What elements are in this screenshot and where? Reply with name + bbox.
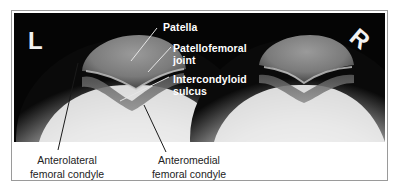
leader-line-patellofemoral-joint — [148, 47, 171, 72]
label-anteromedial-femoral-condyle: Anteromedial femoral condyle — [134, 154, 244, 181]
leader-line-anteromedial — [144, 105, 166, 152]
label-anterolateral-femoral-condyle: Anterolateral femoral condyle — [12, 154, 122, 181]
leader-line-intercondyloid-sulcus — [120, 77, 169, 101]
leader-line-anterolateral — [58, 63, 78, 150]
leader-line-patella — [131, 28, 157, 61]
